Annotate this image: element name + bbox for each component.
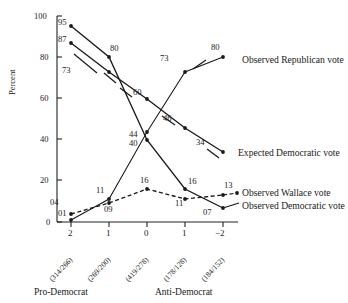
point-label-rep-0: 01 <box>58 209 67 218</box>
point-label-wal-4: 13 <box>224 181 233 190</box>
y-axis-label: Percent <box>8 70 17 96</box>
x-tick-0: 2 <box>68 229 73 238</box>
point-label-exp-2: 60 <box>133 88 142 97</box>
y-tick-80: 80 <box>40 53 49 62</box>
x-tick-2: 0 <box>144 229 149 238</box>
legend-observed-wallace: Observed Wallace vote <box>242 188 331 198</box>
y-tick-20: 20 <box>40 176 49 185</box>
x-axis <box>57 222 238 227</box>
point-label-rep-1: 11 <box>96 186 104 195</box>
point-label-dem-0: 95 <box>58 18 67 27</box>
point-label-wal-1: 09 <box>104 205 113 214</box>
y-tick-100: 100 <box>34 12 47 21</box>
point-label-wal-2: 16 <box>140 176 149 185</box>
legend-observed-republican: Observed Republican vote <box>242 55 344 65</box>
point-label-dem-1: 80 <box>110 44 119 53</box>
point-label-exp-0: 87 <box>58 35 67 44</box>
x-tick-1: 1 <box>106 229 111 238</box>
point-label-exp-4: 34 <box>196 138 205 147</box>
point-label-dem-2: 40 <box>129 139 138 148</box>
series-observed-wallace <box>69 187 239 216</box>
legend-observed-democratic: Observed Democratic vote <box>242 201 345 211</box>
point-label-dem-3: 16 <box>188 177 197 186</box>
x-tick-3: 1 <box>182 229 187 238</box>
point-label-dem-4: 07 <box>203 208 212 217</box>
point-label-wal-0: 04 <box>50 198 59 207</box>
y-tick-0: 0 <box>46 218 50 227</box>
y-axis <box>57 16 62 222</box>
point-label-exp-1: 73 <box>62 66 71 75</box>
point-label-exp-3: 46 <box>163 114 172 123</box>
x-tick-4: −2 <box>215 229 225 238</box>
chart-figure: Percent 100 80 60 40 20 0 2 1 0 1 −2 (31… <box>0 0 348 303</box>
legend-expected-democratic: Expected Democratic vote <box>238 148 340 158</box>
point-label-wal-3: 11 <box>175 199 183 208</box>
point-label-rep-2: 44 <box>129 130 138 139</box>
axis-anchor-right: Anti-Democrat <box>155 288 213 298</box>
point-label-rep-4: 80 <box>211 43 220 52</box>
axis-anchor-left: Pro-Democrat <box>34 288 88 298</box>
y-tick-40: 40 <box>40 135 49 144</box>
point-label-rep-3: 73 <box>160 54 169 63</box>
y-tick-60: 60 <box>40 94 49 103</box>
